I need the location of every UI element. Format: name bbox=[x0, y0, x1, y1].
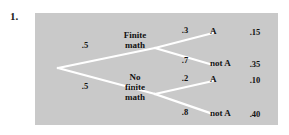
outcome-label-a-no-finite-math: A bbox=[210, 75, 238, 85]
joint-probability-not-a-no-finite-math: .40 bbox=[244, 110, 266, 119]
node-label-no-finite-math-line3: math bbox=[117, 93, 153, 103]
probability-tree-panel: .5 .5 Finite math No finite math .3 .7 .… bbox=[35, 13, 278, 125]
joint-probability-not-a-finite-math: .35 bbox=[244, 60, 266, 69]
joint-probability-a-no-finite-math: .10 bbox=[244, 76, 266, 85]
probability-label-no-finite-math-a: .2 bbox=[178, 74, 192, 83]
tree-branches bbox=[35, 13, 278, 125]
probability-label-finite-math-a: .3 bbox=[178, 26, 192, 35]
probability-label-no-finite-math-not-a: .8 bbox=[178, 108, 192, 117]
branch-root-to-finite-math bbox=[58, 48, 155, 68]
joint-probability-a-finite-math: .15 bbox=[244, 28, 266, 37]
probability-label-finite-math-not-a: .7 bbox=[178, 56, 192, 65]
node-label-finite-math-line2: math bbox=[117, 41, 153, 51]
outcome-label-not-a-finite-math: not A bbox=[210, 59, 238, 69]
branch-finite-math-to-a bbox=[155, 33, 213, 48]
outcome-label-not-a-no-finite-math: not A bbox=[210, 109, 238, 119]
outcome-label-a-finite-math: A bbox=[210, 27, 238, 37]
probability-label-first-branch-top: .5 bbox=[78, 41, 92, 50]
diagram-page: 1. .5 .5 Finite math No finite math .3 .… bbox=[0, 0, 289, 135]
probability-label-first-branch-bottom: .5 bbox=[78, 82, 92, 91]
item-number: 1. bbox=[10, 10, 18, 22]
